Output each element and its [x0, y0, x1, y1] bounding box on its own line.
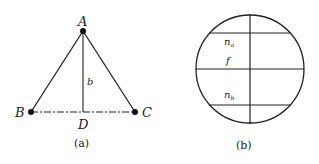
figure-b: na f nb (b): [196, 14, 304, 152]
label-na: na: [224, 36, 234, 48]
label-c: C: [142, 105, 152, 120]
edge-ab: [31, 31, 83, 112]
label-nb: nb: [224, 89, 234, 101]
label-height-b: b: [87, 76, 93, 87]
label-a: A: [77, 14, 87, 29]
figure-a: A B C D b (a): [14, 14, 152, 150]
figure-canvas: A B C D b (a) na f nb (b): [0, 0, 319, 164]
edge-ac: [83, 31, 135, 112]
point-b: [28, 109, 34, 115]
caption-a: (a): [74, 137, 89, 150]
label-b: B: [14, 105, 25, 120]
label-f: f: [225, 55, 232, 66]
caption-b: (b): [236, 139, 252, 152]
point-c: [132, 109, 138, 115]
label-d: D: [77, 117, 89, 132]
